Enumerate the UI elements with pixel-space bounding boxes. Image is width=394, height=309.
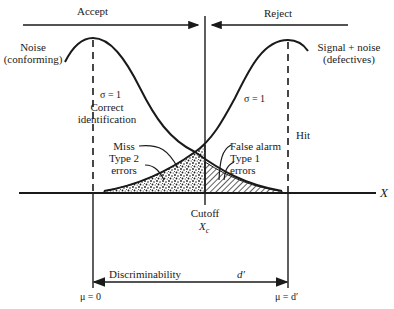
false-alarm-line1: False alarm: [230, 140, 281, 152]
correct-identification-label: Correct identification: [76, 101, 138, 125]
d-prime-label: d′: [237, 268, 245, 280]
accept-label: Accept: [77, 5, 108, 17]
false-alarm-label: False alarm Type 1 errors: [230, 140, 281, 176]
hit-label: Hit: [296, 129, 310, 141]
x-axis-label: X: [380, 187, 388, 199]
cutoff-symbol: Xc: [199, 220, 209, 237]
cutoff-symbol-x: X: [199, 220, 206, 232]
noise-mean-label: μ = 0: [80, 291, 101, 303]
signal-sigma-label: σ = 1: [244, 93, 265, 105]
noise-label-line2: (conforming): [2, 53, 64, 65]
noise-label: Noise (conforming): [2, 41, 64, 65]
signal-detection-diagram: Accept Reject Noise (conforming) Signal …: [0, 0, 394, 309]
miss-label: Miss Type 2 errors: [104, 140, 144, 176]
discriminability-label: Discriminability: [109, 268, 181, 280]
cutoff-label: Cutoff: [183, 207, 227, 219]
signal-label: Signal + noise (defectives): [306, 41, 392, 65]
reject-label: Reject: [264, 7, 292, 19]
false-alarm-line2: Type 1: [230, 152, 281, 164]
correct-line2: identification: [76, 113, 138, 125]
miss-line3: errors: [104, 164, 144, 176]
noise-label-line1: Noise: [2, 41, 64, 53]
cutoff-symbol-sub: c: [206, 226, 210, 235]
signal-label-line2: (defectives): [306, 53, 392, 65]
signal-label-line1: Signal + noise: [306, 41, 392, 53]
correct-line1: Correct: [76, 101, 138, 113]
miss-line2: Type 2: [104, 152, 144, 164]
noise-sigma-label: σ = 1: [100, 89, 121, 101]
miss-line1: Miss: [104, 140, 144, 152]
signal-mean-label: μ = d′: [275, 291, 298, 303]
false-alarm-line3: errors: [230, 164, 281, 176]
